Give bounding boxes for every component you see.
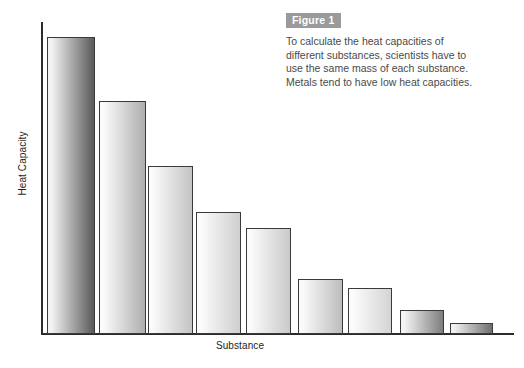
bar-rect — [298, 279, 343, 334]
bar-rect — [148, 166, 193, 334]
caption-line: To calculate the heat capacities of — [286, 35, 518, 49]
caption-line: different substances, scientists have to — [286, 49, 518, 63]
figure-caption-text: To calculate the heat capacities ofdiffe… — [286, 35, 518, 89]
caption-line: Metals tend to have low heat capacities. — [286, 76, 518, 90]
bar-rect — [99, 101, 146, 334]
bar-concrete: Concrete — [148, 0, 193, 334]
x-axis-title: Substance — [180, 340, 300, 351]
bar-rect — [246, 228, 291, 334]
bar-rect — [47, 37, 95, 334]
bar-vegetable-oil: VegetableOil — [246, 0, 291, 334]
caption-line: use the same mass of each substance. — [286, 62, 518, 76]
bar-rect — [450, 323, 493, 334]
y-axis-title: Heat Capacity — [17, 109, 28, 219]
y-axis-line — [41, 22, 43, 335]
figure-root: Heat Capacity Substance Helium GasWaterC… — [0, 0, 524, 368]
bar-water: Water — [99, 0, 146, 334]
bar-rect — [400, 310, 444, 334]
bar-helium-gas: Helium Gas — [47, 0, 95, 334]
figure-caption-box: Figure 1 To calculate the heat capacitie… — [286, 10, 518, 89]
figure-number-badge: Figure 1 — [286, 13, 341, 28]
bar-ethylene-glycol: EthyleneGlycol — [196, 0, 241, 334]
bar-rect — [348, 288, 392, 334]
bar-rect — [196, 212, 241, 334]
